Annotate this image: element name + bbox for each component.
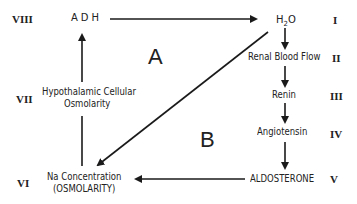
node-na-line1: Na Concentration [47,171,121,182]
node-hypothalamic-line2: Osmolarity [64,98,110,109]
roman-iii: III [330,90,343,102]
roman-vi: VI [17,177,29,189]
h2o-o: O [288,14,296,25]
arrow-h2o-na [98,32,268,165]
node-adh: ADH [71,12,102,23]
roman-viii: VIII [12,13,33,25]
roman-vii: VII [16,93,33,105]
roman-ii: II [332,52,341,64]
h2o-h: H [276,14,284,25]
node-hypothalamic-line1: Hypothalamic Cellular [42,86,136,97]
roman-v: V [330,173,338,185]
roman-iv: IV [330,128,342,140]
feedback-diagram: VIII I II III IV V VI VII ADH H2O Renal … [0,0,357,204]
node-renal-blood-flow: Renal Blood Flow [248,51,321,62]
region-a: A [148,44,163,70]
node-aldosterone: ALDOSTERONE [250,173,314,184]
roman-i: I [333,14,337,26]
node-renin: Renin [272,89,296,100]
node-na-line2: (OSMOLARITY) [53,183,115,194]
node-h2o: H2O [276,14,296,28]
region-b: B [200,127,215,153]
node-angiotensin: Angiotensin [257,126,307,137]
